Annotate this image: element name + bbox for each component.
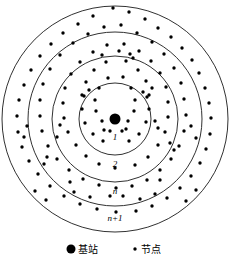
- sensor-node: [172, 66, 175, 69]
- sensor-node: [182, 97, 185, 100]
- sensor-node: [87, 88, 90, 91]
- sensor-node: [82, 94, 85, 97]
- ring-label-ring-2: 2: [113, 159, 118, 169]
- sensor-node: [66, 130, 69, 133]
- sensor-node: [48, 67, 51, 70]
- sensor-node: [143, 17, 146, 20]
- sensor-node: [169, 35, 172, 38]
- sensor-node: [189, 174, 192, 177]
- sensor-node: [166, 100, 169, 103]
- legend-node-label: 节点: [141, 244, 161, 255]
- sensor-node: [38, 114, 41, 117]
- sensor-node: [108, 194, 111, 197]
- sensor-node: [129, 86, 132, 89]
- sensor-node: [127, 10, 130, 13]
- sensor-node: [117, 49, 120, 52]
- sensor-node: [169, 157, 172, 160]
- sensor-node: [104, 60, 107, 63]
- sensor-node: [204, 147, 207, 150]
- sensor-node: [102, 25, 105, 28]
- sensor-node: [128, 52, 131, 55]
- sensor-node: [58, 53, 61, 56]
- legend-base-station-label: 基站: [78, 243, 98, 255]
- sensor-node: [184, 113, 187, 116]
- sensor-node: [124, 59, 127, 62]
- sensor-node: [88, 195, 91, 198]
- sensor-node: [137, 132, 140, 135]
- sensor-node: [86, 32, 89, 35]
- sensor-node: [95, 207, 98, 210]
- sensor-node: [166, 115, 169, 118]
- sensor-node: [190, 58, 193, 61]
- sensor-node: [135, 31, 138, 34]
- sensor-node: [194, 188, 197, 191]
- sensor-node: [172, 148, 175, 151]
- sensor-node: [133, 163, 136, 166]
- sensor-node: [197, 71, 200, 74]
- sensor-node: [122, 42, 125, 45]
- sensor-node: [150, 40, 153, 43]
- sensor-node: [33, 189, 36, 192]
- sensor-node: [111, 6, 114, 9]
- sensor-node: [93, 98, 96, 101]
- sensor-node: [108, 129, 111, 132]
- sensor-node: [80, 107, 83, 110]
- sensor-node: [150, 86, 153, 89]
- sensor-node: [146, 155, 149, 158]
- sensor-node: [97, 162, 100, 165]
- sensor-node: [162, 52, 165, 55]
- sensor-node: [120, 129, 123, 132]
- sensor-node: [156, 143, 159, 146]
- sensor-node: [81, 177, 84, 180]
- sensor-node: [92, 68, 95, 71]
- sensor-node: [91, 14, 94, 17]
- sensor-node: [44, 198, 47, 201]
- sensor-node: [25, 124, 28, 127]
- sensor-node: [71, 41, 74, 44]
- sensor-node: [182, 129, 185, 132]
- sensor-node: [136, 68, 139, 71]
- sensor-node: [36, 172, 39, 175]
- sensor-node: [94, 109, 97, 112]
- sensor-node: [61, 101, 64, 104]
- sensor-node: [102, 128, 105, 131]
- sensor-node: [209, 116, 212, 119]
- sensor-node: [153, 192, 156, 195]
- sensor-node: [150, 204, 153, 207]
- sensor-node: [69, 72, 72, 75]
- sensor-node: [55, 157, 58, 160]
- sensor-node: [121, 194, 124, 197]
- sensor-node: [91, 132, 94, 135]
- sensor-node: [131, 56, 134, 59]
- sensor-node: [15, 114, 18, 117]
- sensor-node: [48, 184, 51, 187]
- sensor-node: [63, 86, 66, 89]
- sensor-node: [100, 119, 103, 122]
- ring-label-ring-1: 1: [113, 132, 118, 142]
- sensor-node: [58, 123, 61, 126]
- legend: 基站节点: [67, 243, 162, 255]
- sensor-node: [203, 86, 206, 89]
- sensor-node: [22, 83, 25, 86]
- sensor-node: [16, 130, 19, 133]
- ring-label-ring-n-plus-1: n+1: [107, 213, 122, 223]
- sensor-node: [165, 196, 168, 199]
- sensor-node: [78, 202, 81, 205]
- sensor-node: [124, 127, 127, 130]
- sensor-node: [184, 199, 187, 202]
- ring-label-ring-n: n: [113, 186, 118, 196]
- sensor-node: [55, 135, 58, 138]
- sensor-node: [163, 130, 166, 133]
- sensor-node: [132, 109, 135, 112]
- sensor-node: [38, 98, 41, 101]
- sensor-node: [68, 180, 71, 183]
- sensor-node: [137, 49, 140, 52]
- sensor-node: [198, 161, 201, 164]
- sensor-node: [158, 71, 161, 74]
- sensor-node: [91, 50, 94, 53]
- sensor-node: [168, 141, 171, 144]
- sensor-node: [100, 53, 103, 56]
- sensor-node: [194, 136, 197, 139]
- sensor-node: [145, 178, 148, 181]
- sensor-node: [20, 145, 23, 148]
